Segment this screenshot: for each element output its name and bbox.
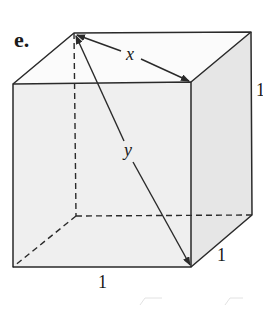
cube-diagram: e. x y 1 1 1 <box>0 0 263 313</box>
cube-front-face <box>13 82 191 267</box>
label-x: x <box>125 44 134 64</box>
label-y: y <box>122 140 132 160</box>
label-height: 1 <box>256 80 263 100</box>
faint-marks <box>140 298 243 305</box>
label-width: 1 <box>98 272 107 292</box>
part-label: e. <box>14 27 29 52</box>
label-depth: 1 <box>217 245 226 265</box>
